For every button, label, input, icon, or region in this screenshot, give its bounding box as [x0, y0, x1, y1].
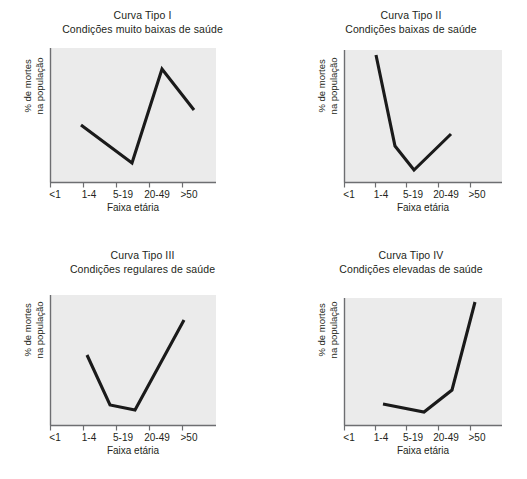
chart-panel-curva-tipo-iii: Curva Tipo III Condições regulares de sa… — [0, 240, 263, 479]
y-axis-label: % de mortes na população — [22, 284, 46, 376]
x-tick-label-4: >50 — [457, 432, 497, 443]
x-axis-label: Faixa etária — [50, 202, 216, 213]
x-axis-label: Faixa etária — [344, 202, 502, 213]
y-axis-label-line2: na população — [34, 284, 46, 376]
y-axis-label-line1: % de mortes — [22, 40, 34, 132]
chart-panel-curva-tipo-ii: Curva Tipo II Condições baixas de saúde … — [263, 0, 527, 240]
plot-svg — [263, 240, 527, 479]
x-axis-label: Faixa etária — [50, 445, 216, 456]
y-axis-label-line2: na população — [34, 40, 46, 132]
y-axis-label: % de mortes na população — [22, 40, 46, 132]
y-axis-label-line1: % de mortes — [316, 40, 328, 132]
x-axis-label: Faixa etária — [344, 445, 502, 456]
y-axis-label: % de mortes na população — [316, 284, 340, 376]
chart-panel-curva-tipo-iv: Curva Tipo IV Condições elevadas de saúd… — [263, 240, 527, 479]
x-tick-label-4: >50 — [457, 189, 497, 200]
plot-background — [344, 298, 502, 425]
plot-area-wrapper: % de mortes na população <1 1-4 5-19 20-… — [263, 240, 527, 479]
plot-area-wrapper: % de mortes na população <1 1-4 5-19 20-… — [0, 240, 263, 479]
y-axis-label-line2: na população — [328, 284, 340, 376]
x-tick-label-4: >50 — [169, 189, 209, 200]
y-axis-label-line2: na população — [328, 40, 340, 132]
y-axis-label: % de mortes na população — [316, 40, 340, 132]
chart-panel-curva-tipo-i: Curva Tipo I Condições muito baixas de s… — [0, 0, 263, 240]
figure-panel-grid: Curva Tipo I Condições muito baixas de s… — [0, 0, 527, 479]
x-tick-label-4: >50 — [169, 432, 209, 443]
plot-area-wrapper: % de mortes na população <1 1-4 5-19 20-… — [263, 0, 527, 240]
y-axis-label-line1: % de mortes — [316, 284, 328, 376]
plot-area-wrapper: % de mortes na população <1 1-4 5-19 20-… — [0, 0, 263, 240]
y-axis-label-line1: % de mortes — [22, 284, 34, 376]
plot-background — [50, 295, 216, 425]
